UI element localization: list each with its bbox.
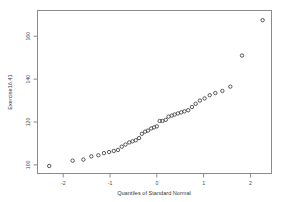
data-point [208,94,211,97]
data-point [240,54,243,57]
data-point [164,118,167,121]
data-point [198,99,201,102]
data-point [97,154,100,157]
data-point [140,132,143,135]
y-axis-label: Exercise16.41 [7,74,13,109]
x-tick-label: 1 [202,180,205,186]
y-axis-ticks: 100120140160 [26,32,38,169]
y-tick-label: 100 [26,160,32,169]
data-point [120,145,123,148]
x-axis-ticks: -2-1012 [61,174,252,186]
data-point [134,139,137,142]
data-point [261,18,264,21]
data-point [137,136,140,139]
x-tick-label: -2 [61,180,66,186]
y-tick-label: 140 [26,75,32,84]
data-point [183,110,186,113]
x-tick-label: 0 [155,180,158,186]
data-point [71,159,74,162]
data-point [186,109,189,112]
plot-frame [38,11,272,174]
data-point [112,149,115,152]
y-tick-label: 160 [26,32,32,41]
data-point [82,158,85,161]
data-point [107,150,110,153]
x-tick-label: -1 [108,180,113,186]
data-point [194,102,197,105]
x-axis-label: Quantiles of Standard Normal [117,190,191,196]
data-point [124,143,127,146]
data-point [190,105,193,108]
qq-plot-figure: -2-1012 100120140160 Quantiles of Standa… [0,0,283,202]
data-point [221,89,224,92]
y-tick-label: 120 [26,118,32,127]
x-tick-label: 2 [249,180,252,186]
data-point [48,164,51,167]
data-point [102,151,105,154]
data-point [214,91,217,94]
data-point [229,85,232,88]
data-points [48,18,265,167]
data-point [90,155,93,158]
data-point [203,97,206,100]
data-point [116,148,119,151]
qq-plot-svg: -2-1012 100120140160 Quantiles of Standa… [0,0,283,202]
